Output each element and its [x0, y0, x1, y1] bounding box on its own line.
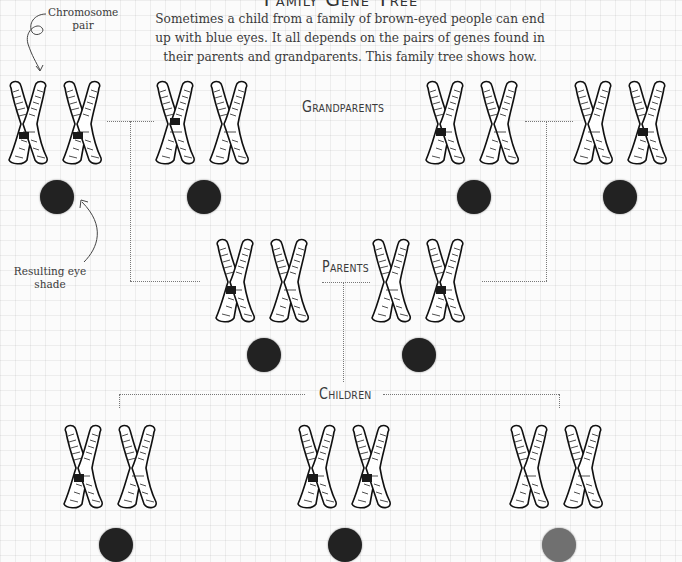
eye-shade-light: [542, 528, 576, 562]
chromosome-pair-icon: [152, 80, 257, 165]
eye-shade-dark: [40, 180, 74, 214]
curly-arrow-icon: [20, 10, 60, 80]
connector-parents-down: [343, 282, 344, 382]
connector-gp-right-down: [546, 121, 547, 281]
connector-children-left: [119, 394, 305, 395]
connector-child3: [559, 394, 560, 408]
child-2: [294, 424, 399, 509]
chromosome-pair-icon: [368, 238, 473, 323]
grandparents-label: Grandparents: [302, 98, 384, 116]
eye-shade-dark: [99, 528, 133, 562]
eye-shade-dark: [603, 180, 637, 214]
connector-children-right: [383, 394, 559, 395]
chromosome-pair-icon: [212, 238, 317, 323]
connector-gp3-gp4: [525, 121, 573, 122]
grandparent-3: [422, 80, 527, 165]
eye-shade-dark: [457, 180, 491, 214]
chromosome-pair-icon: [422, 80, 527, 165]
parent-2: [368, 238, 473, 323]
parent-1: [212, 238, 317, 323]
chromosome-pair-icon: [506, 424, 611, 509]
parents-label: Parents: [322, 258, 369, 276]
child-3: [506, 424, 611, 509]
grandparent-4: [570, 80, 675, 165]
eye-shade-annotation: Resulting eye shade: [10, 265, 90, 291]
connector-to-parent2: [482, 281, 547, 282]
connector-parents: [322, 282, 370, 283]
children-label: Children: [319, 385, 372, 403]
connector-gp-left-down: [130, 121, 131, 281]
eye-shade-dark: [328, 528, 362, 562]
connector-child1: [119, 394, 120, 408]
chromosome-pair-icon: [570, 80, 675, 165]
connector-to-parent1: [130, 281, 200, 282]
eye-shade-dark: [247, 338, 281, 372]
grandparent-2: [152, 80, 257, 165]
intro-text: Sometimes a child from a family of brown…: [150, 10, 550, 67]
chromosome-pair-icon: [294, 424, 399, 509]
child-1: [60, 424, 165, 509]
chromosome-pair-icon: [5, 80, 110, 165]
eye-shade-dark: [187, 180, 221, 214]
eye-shade-dark: [402, 338, 436, 372]
curved-arrow-icon: [70, 196, 110, 266]
chromosome-pair-icon: [60, 424, 165, 509]
grandparent-1: [5, 80, 110, 165]
